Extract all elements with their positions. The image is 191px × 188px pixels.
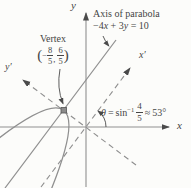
vertex-marker [61,108,67,114]
axis-note: Axis of parabola −4x + 3y = 10 [93,8,160,31]
x-prime-label: x′ [139,49,146,61]
angle-label: θ = sin−1 4 5 ≈ 53° [101,102,166,123]
y-prime-label: y′ [5,61,12,73]
vertex-label: Vertex ( − 8 5 , 6 5 ) [26,33,80,66]
equation-leader-arrow [103,36,109,46]
vertex-leader-arrow [59,69,63,104]
fraction-4-5: 4 5 [136,102,143,123]
inverse-sine: sin−1 [116,107,135,119]
axis-note-title: Axis of parabola [93,8,160,20]
y-axis-label: y [71,0,76,12]
x-axis-label: x [177,119,182,132]
vertex-coordinates: ( − 8 5 , 6 5 ) [26,46,80,66]
vertex-title: Vertex [26,33,80,45]
figure: Axis of parabola −4x + 3y = 10 Vertex ( … [0,0,191,188]
axis-note-equation: −4x + 3y = 10 [93,20,160,32]
